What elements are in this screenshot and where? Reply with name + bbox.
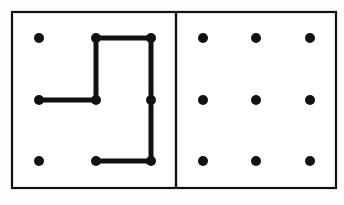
grid-dot-R-r0c1[interactable] — [251, 33, 261, 43]
grid-dot-R-r1c0[interactable] — [198, 95, 208, 105]
grid-dot-R-r0c2[interactable] — [305, 33, 315, 43]
grid-dot-L-r0c2[interactable] — [146, 33, 156, 43]
grid-dot-R-r2c0[interactable] — [198, 156, 208, 166]
grid-dot-L-r1c1[interactable] — [91, 95, 101, 105]
grid-dot-R-r1c1[interactable] — [251, 95, 261, 105]
grid-dot-L-r2c2[interactable] — [146, 156, 156, 166]
grid-dot-L-r1c0[interactable] — [34, 95, 44, 105]
grid-dot-L-r0c0[interactable] — [34, 33, 44, 43]
grid-dot-R-r1c2[interactable] — [305, 95, 315, 105]
grid-dot-L-r2c0[interactable] — [34, 156, 44, 166]
grid-dot-R-r2c1[interactable] — [251, 156, 261, 166]
grid-dot-L-r2c1[interactable] — [91, 156, 101, 166]
grid-dot-L-r1c2[interactable] — [146, 95, 156, 105]
dot-grid-figure — [0, 0, 344, 205]
figure-canvas — [0, 0, 344, 205]
grid-dot-R-r2c2[interactable] — [305, 156, 315, 166]
grid-dot-L-r0c1[interactable] — [91, 33, 101, 43]
grid-dot-R-r0c0[interactable] — [198, 33, 208, 43]
